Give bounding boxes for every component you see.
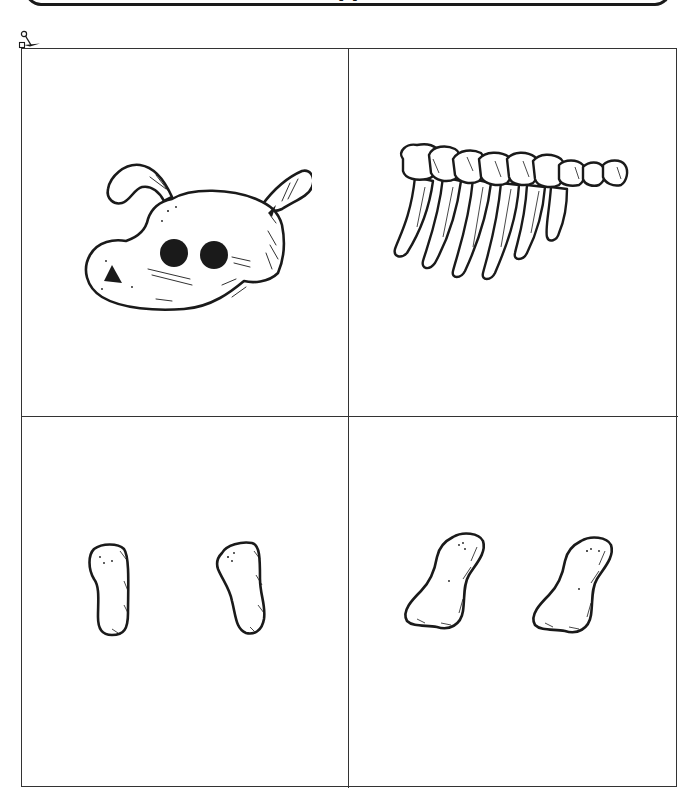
cell-ribs[interactable]: Rib cage [349,49,678,417]
front-leg-bone-right [214,539,274,639]
cell-head[interactable]: Dog skull [22,49,349,417]
back-leg-bone-right [529,531,619,643]
rib-cage-drawing [377,137,637,287]
banner-title: ( ) [28,0,668,1]
cutout-grid: Dog skull [21,48,677,787]
scissors-icon [18,30,42,50]
title-banner: ( ) [25,0,671,6]
cell-front-legs[interactable]: Front leg bones (2) [22,417,349,788]
front-leg-bone-left [84,541,144,641]
dog-skull-drawing [72,149,312,349]
cell-back-legs[interactable]: Back leg bones (2) [349,417,678,788]
back-leg-bone-left [401,527,491,639]
